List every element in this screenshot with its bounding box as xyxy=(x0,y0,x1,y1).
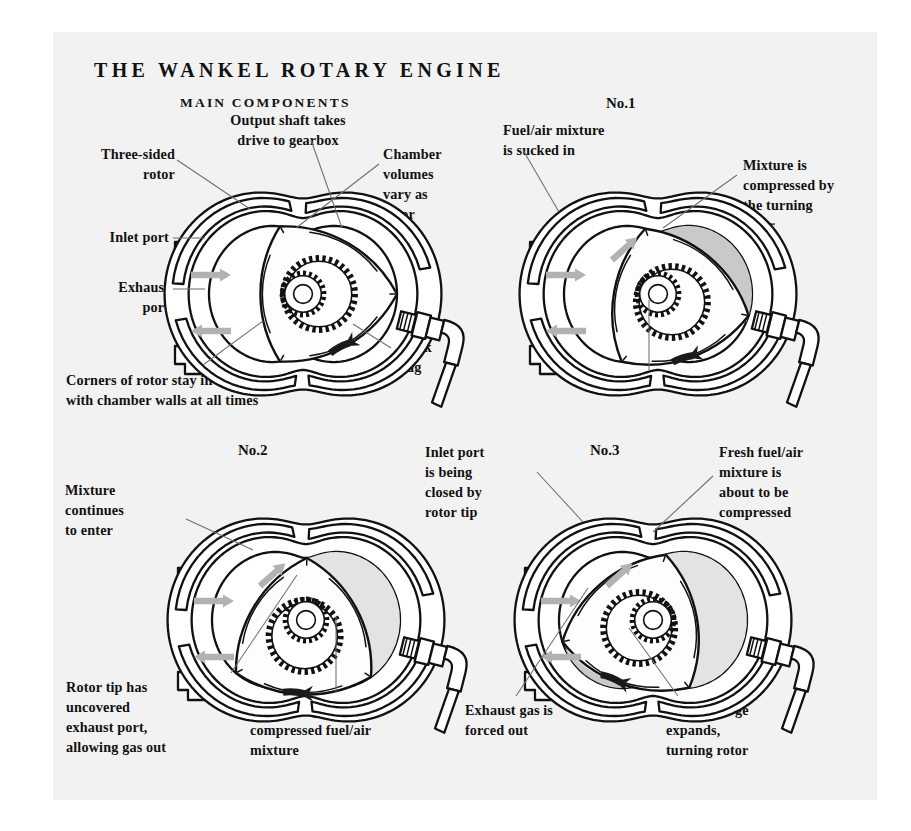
leader-lines xyxy=(53,32,877,800)
diagram-page: THE WANKEL ROTARY ENGINE MAIN COMPONENTS… xyxy=(53,32,877,800)
